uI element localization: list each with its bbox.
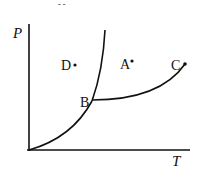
point-a-dot (130, 59, 133, 62)
y-axis-label: P (12, 25, 22, 41)
point-c-label: C (171, 58, 180, 73)
phase-diagram: - - P T D A C B (0, 0, 200, 172)
curve-b-steep (92, 30, 105, 101)
point-c-dot (183, 62, 187, 66)
x-axis-label: T (172, 153, 182, 169)
point-a-label: A (120, 57, 131, 72)
point-b-label: B (80, 95, 89, 110)
point-d-dot (73, 63, 76, 66)
top-mark: - - (58, 0, 66, 9)
point-d-label: D (61, 58, 71, 73)
